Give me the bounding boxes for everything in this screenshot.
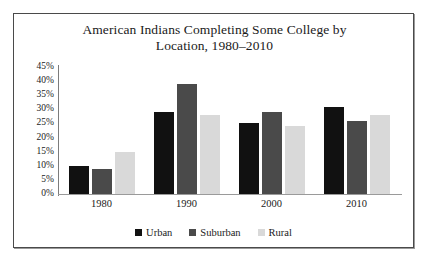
chart-title-line-1: American Indians Completing Some College…: [36, 22, 393, 38]
bar-rural-2000[interactable]: [285, 126, 305, 194]
y-axis-tick-label: 35%: [20, 90, 54, 100]
legend-swatch-icon: [189, 229, 196, 236]
legend-swatch-icon: [135, 229, 142, 236]
legend-label: Rural: [269, 227, 292, 238]
bar-urban-2000[interactable]: [239, 123, 259, 194]
legend-item-rural[interactable]: Rural: [258, 227, 292, 238]
legend-item-suburban[interactable]: Suburban: [189, 227, 240, 238]
legend-label: Suburban: [200, 227, 240, 238]
bar-group: [314, 67, 399, 194]
y-axis-tick-label: 45%: [20, 62, 54, 72]
x-axis-tick-label: 2010: [314, 198, 399, 210]
y-axis-tick-label: 20%: [20, 133, 54, 143]
legend-item-urban[interactable]: Urban: [135, 227, 172, 238]
y-axis-tick-label: 40%: [20, 76, 54, 86]
legend-swatch-icon: [258, 229, 265, 236]
bar-urban-1980[interactable]: [69, 166, 89, 194]
legend-label: Urban: [146, 227, 172, 238]
chart-title-line-2: Location, 1980–2010: [36, 38, 393, 54]
bar-rural-1980[interactable]: [115, 152, 135, 194]
x-axis-tick-label: 2000: [229, 198, 314, 210]
bar-rural-2010[interactable]: [370, 115, 390, 194]
bar-group: [59, 67, 144, 194]
bar-suburban-2000[interactable]: [262, 112, 282, 194]
y-axis-tick-label: 25%: [20, 118, 54, 128]
bar-rural-1990[interactable]: [200, 115, 220, 194]
y-axis-tick-label: 5%: [20, 175, 54, 185]
x-axis-line: [58, 194, 402, 195]
bar-suburban-1990[interactable]: [177, 84, 197, 194]
y-axis-tick-label: 30%: [20, 104, 54, 114]
y-axis-tick-labels: 45%40%35%30%25%20%15%10%5%0%: [18, 14, 54, 261]
y-axis-tick-label: 15%: [20, 147, 54, 157]
bar-urban-2010[interactable]: [324, 107, 344, 194]
y-axis-tick-label: 0%: [20, 189, 54, 199]
chart-title: American Indians Completing Some College…: [36, 22, 393, 54]
x-axis-tick-label: 1990: [144, 198, 229, 210]
chart-figure: American Indians Completing Some College…: [13, 13, 414, 248]
bar-group: [144, 67, 229, 194]
plot-area: [59, 67, 399, 194]
bar-suburban-2010[interactable]: [347, 121, 367, 194]
bar-suburban-1980[interactable]: [92, 169, 112, 194]
chart-legend: UrbanSuburbanRural: [14, 227, 413, 238]
bar-urban-1990[interactable]: [154, 112, 174, 194]
bar-group: [229, 67, 314, 194]
x-axis-tick-label: 1980: [59, 198, 144, 210]
y-axis-tick-label: 10%: [20, 161, 54, 171]
